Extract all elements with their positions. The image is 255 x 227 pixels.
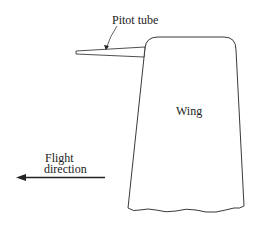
pitot-tube: [76, 47, 145, 57]
pitot-leader-line: [106, 26, 117, 49]
wing-label: Wing: [176, 105, 202, 117]
flight-direction-label-line2: direction: [44, 163, 87, 175]
diagram-canvas: [0, 0, 255, 227]
wing-outline: [128, 37, 244, 212]
pitot-tube-label: Pitot tube: [112, 14, 158, 26]
flight-arrow-head: [16, 174, 26, 181]
